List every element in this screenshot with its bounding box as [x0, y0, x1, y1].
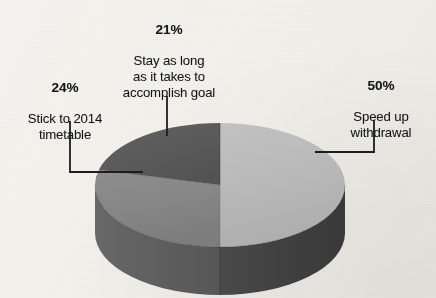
callout-stick-label: Stick to 2014 timetable	[28, 111, 102, 142]
callout-speed-percent: 50%	[330, 78, 432, 94]
pie-chart-figure: 21% Stay as long as it takes to accompli…	[0, 0, 436, 298]
callout-speed-label: Speed up withdrawal	[351, 109, 412, 140]
callout-stay-percent: 21%	[104, 22, 234, 38]
callout-stick-to-timetable: 24% Stick to 2014 timetable	[6, 64, 124, 143]
callout-speed-up-withdrawal: 50% Speed up withdrawal	[330, 62, 432, 141]
callout-stay-label: Stay as long as it takes to accomplish g…	[123, 53, 215, 99]
callout-stick-percent: 24%	[6, 80, 124, 96]
